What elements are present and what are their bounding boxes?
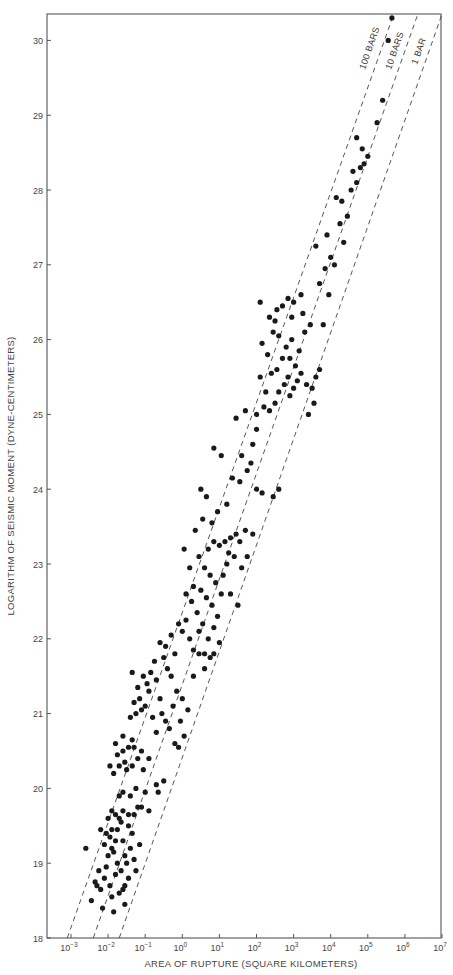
data-point [126, 812, 131, 817]
data-point [191, 584, 196, 589]
data-point [265, 352, 270, 357]
data-point [152, 659, 157, 664]
data-point [380, 98, 385, 103]
data-point [185, 707, 190, 712]
data-point [261, 404, 266, 409]
data-point [135, 756, 140, 761]
data-point [109, 894, 114, 899]
data-point [122, 902, 127, 907]
data-point [161, 778, 166, 783]
data-point [131, 857, 136, 862]
scatter-plot: 18192021222324252627282930 10−310−210−11… [0, 0, 453, 975]
data-point [157, 640, 162, 645]
x-tick-label: 105 [359, 941, 373, 953]
data-point [120, 790, 125, 795]
data-point [206, 546, 211, 551]
x-tick-label: 106 [396, 941, 410, 953]
data-point [224, 502, 229, 507]
data-point [109, 808, 114, 813]
data-point [137, 696, 142, 701]
data-point [349, 187, 354, 192]
data-point [163, 718, 168, 723]
data-point [308, 322, 313, 327]
data-point [386, 38, 391, 43]
data-point [374, 120, 379, 125]
data-point [102, 842, 107, 847]
data-point [215, 509, 220, 514]
data-point [254, 412, 259, 417]
data-point [228, 535, 233, 540]
data-point [83, 846, 88, 851]
data-point [174, 689, 179, 694]
data-point [126, 876, 131, 881]
data-point [365, 154, 370, 159]
data-point [310, 386, 315, 391]
data-point [326, 292, 331, 297]
data-point [300, 311, 305, 316]
data-point [111, 849, 116, 854]
data-point [107, 883, 112, 888]
data-point [259, 490, 264, 495]
data-point [135, 685, 140, 690]
data-point [133, 711, 138, 716]
data-point [117, 793, 122, 798]
data-point [115, 752, 120, 757]
data-point [120, 887, 125, 892]
data-point [154, 782, 159, 787]
data-point [267, 408, 272, 413]
data-point [98, 887, 103, 892]
data-point [276, 487, 281, 492]
stress-drop-line [119, 14, 442, 938]
data-point [222, 539, 227, 544]
y-tick-label: 21 [33, 709, 43, 719]
data-point [159, 711, 164, 716]
data-point [209, 603, 214, 608]
data-point [200, 517, 205, 522]
data-point [143, 704, 148, 709]
data-point [130, 670, 135, 675]
data-point [172, 741, 177, 746]
data-point [293, 363, 298, 368]
data-point [211, 651, 216, 656]
data-point [235, 603, 240, 608]
data-point [211, 445, 216, 450]
data-point [291, 386, 296, 391]
data-point [337, 221, 342, 226]
stress-drop-line [67, 14, 393, 938]
y-tick-label: 27 [33, 260, 43, 270]
data-point [291, 300, 296, 305]
y-tick-label: 20 [33, 784, 43, 794]
data-point [122, 853, 127, 858]
data-point [217, 543, 222, 548]
data-point [196, 651, 201, 656]
data-point [146, 808, 151, 813]
data-point [191, 647, 196, 652]
data-point [120, 748, 125, 753]
data-point [272, 401, 277, 406]
data-point [206, 636, 211, 641]
data-point [339, 199, 344, 204]
data-point [104, 864, 109, 869]
data-point [271, 494, 276, 499]
data-point [276, 389, 281, 394]
data-point [248, 460, 253, 465]
data-point [274, 367, 279, 372]
y-tick-label: 25 [33, 410, 43, 420]
data-point [254, 487, 259, 492]
data-point [178, 718, 183, 723]
data-point [176, 621, 181, 626]
data-point [317, 367, 322, 372]
data-point [117, 891, 122, 896]
data-point [350, 169, 355, 174]
data-point [298, 371, 303, 376]
data-point [93, 879, 98, 884]
data-point [239, 453, 244, 458]
data-point [187, 636, 192, 641]
data-point [118, 868, 123, 873]
x-tick-label: 10−3 [60, 941, 78, 953]
line-label-10-bars: 10 BARS [383, 30, 405, 70]
line-label-100-bars: 100 BARS [357, 25, 381, 70]
data-point [113, 838, 118, 843]
data-point [143, 790, 148, 795]
data-point [358, 165, 363, 170]
